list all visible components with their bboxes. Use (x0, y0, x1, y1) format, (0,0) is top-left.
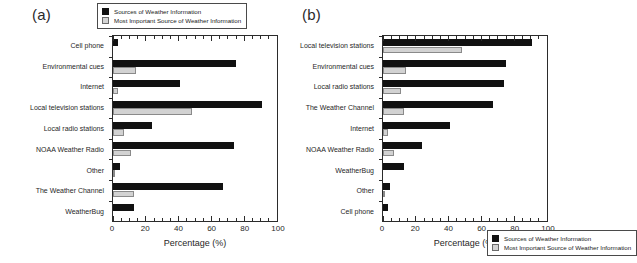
bar-row (383, 139, 547, 160)
panel-b-category-labels: Local television stationsEnvironmental c… (292, 35, 378, 222)
panel-a-bar-rows (113, 36, 277, 221)
bar-most-important (113, 150, 131, 157)
bar-sources (383, 60, 506, 67)
y-tick-mark (109, 201, 113, 202)
panel-b-bar-rows (383, 36, 547, 221)
legend-entry-most-important: Most Important Source of Weather Informa… (102, 16, 241, 25)
x-tick-label: 100 (271, 224, 284, 233)
legend-panel-b: Sources of Weather Information Most Impo… (487, 230, 637, 256)
x-tick-label: 20 (411, 224, 420, 233)
bar-row (383, 201, 547, 222)
bar-row (113, 139, 277, 160)
y-tick-mark (109, 36, 113, 37)
bar-sources (113, 142, 234, 149)
bar-most-important (383, 150, 394, 157)
bar-sources (383, 39, 532, 46)
legend-label-sources: Sources of Weather Information (504, 234, 591, 243)
y-tick-mark (379, 180, 383, 181)
legend-label-most-important: Most Important Source of Weather Informa… (114, 16, 241, 25)
bar-most-important (113, 129, 124, 136)
dark-square-icon (102, 8, 109, 15)
category-label: Internet (292, 118, 378, 139)
bar-row (113, 98, 277, 119)
bar-sources (383, 142, 422, 149)
bar-sources (113, 39, 118, 46)
bar-sources (383, 80, 504, 87)
bar-most-important (383, 108, 404, 115)
bar-row (383, 118, 547, 139)
bar-most-important (383, 129, 388, 136)
category-label: The Weather Channel (0, 180, 108, 201)
panel-a: (a) Sources of Weather Information Most … (0, 0, 291, 263)
y-tick-mark (379, 118, 383, 119)
bar-row (383, 57, 547, 78)
bar-sources (383, 101, 493, 108)
legend-entry-sources: Sources of Weather Information (102, 7, 241, 16)
bar-row (383, 159, 547, 180)
panel-a-category-labels: Cell phoneEnvironmental cuesInternetLoca… (0, 35, 108, 222)
panel-b: (b) Local television stationsEnvironment… (292, 0, 583, 263)
legend-label-most-important: Most Important Source of Weather Informa… (504, 243, 631, 252)
bar-sources (113, 101, 262, 108)
x-tick-label: 0 (380, 224, 384, 233)
category-label: WeatherBug (0, 201, 108, 222)
y-tick-mark (379, 77, 383, 78)
category-label: Cell phone (292, 201, 378, 222)
legend-label-sources: Sources of Weather Information (114, 7, 201, 16)
x-tick-label: 60 (477, 224, 486, 233)
bar-sources (113, 204, 134, 211)
x-tick-label: 0 (110, 224, 114, 233)
bar-most-important (383, 47, 462, 54)
bar-row (113, 118, 277, 139)
x-tick-label: 80 (240, 224, 249, 233)
bar-most-important (383, 191, 385, 198)
category-label: Environmental cues (292, 56, 378, 77)
y-tick-mark (109, 159, 113, 160)
category-label: Internet (0, 77, 108, 98)
y-tick-mark (109, 180, 113, 181)
category-label: Environmental cues (0, 56, 108, 77)
legend-entry-most-important: Most Important Source of Weather Informa… (492, 243, 631, 252)
panel-a-x-axis-title: Percentage (%) (112, 238, 278, 248)
category-label: NOAA Weather Radio (0, 139, 108, 160)
bar-row (383, 180, 547, 201)
y-tick-mark (379, 139, 383, 140)
category-label: NOAA Weather Radio (292, 139, 378, 160)
category-label: WeatherBug (292, 160, 378, 181)
bar-sources (113, 122, 152, 129)
bar-sources (113, 80, 180, 87)
bar-row (113, 57, 277, 78)
category-label: Local television stations (292, 35, 378, 56)
y-tick-mark (379, 98, 383, 99)
bar-most-important (383, 88, 401, 95)
legend-entry-sources: Sources of Weather Information (492, 234, 631, 243)
bar-sources (113, 163, 120, 170)
bar-row (113, 77, 277, 98)
y-tick-mark (109, 139, 113, 140)
light-square-icon (102, 17, 109, 24)
y-tick-mark (109, 57, 113, 58)
category-label: The Weather Channel (292, 97, 378, 118)
category-label: Other (0, 160, 108, 181)
light-square-icon (492, 244, 499, 251)
category-label: Local television stations (0, 97, 108, 118)
y-tick-mark (379, 57, 383, 58)
panel-a-x-tick-labels: 020406080100 (112, 224, 278, 236)
y-tick-mark (379, 36, 383, 37)
bar-most-important (113, 88, 118, 95)
legend-panel-a: Sources of Weather Information Most Impo… (97, 3, 247, 29)
y-tick-mark (109, 98, 113, 99)
bar-sources (113, 60, 236, 67)
category-label: Local radio stations (292, 77, 378, 98)
bar-sources (383, 122, 450, 129)
x-tick-label: 60 (207, 224, 216, 233)
bar-row (113, 201, 277, 222)
y-tick-mark (379, 159, 383, 160)
bar-most-important (113, 191, 134, 198)
bar-sources (383, 204, 388, 211)
category-label: Other (292, 180, 378, 201)
y-tick-mark (109, 118, 113, 119)
bar-most-important (113, 170, 115, 177)
bar-most-important (113, 67, 136, 74)
